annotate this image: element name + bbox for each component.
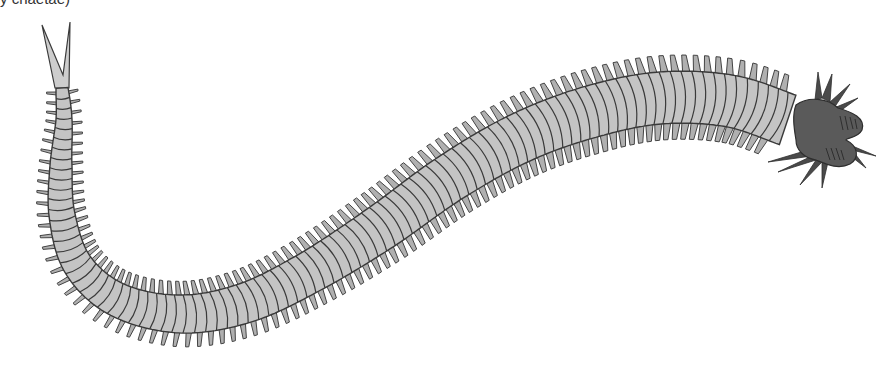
parapodium <box>635 58 646 75</box>
parapodium <box>173 332 180 347</box>
parapodium <box>37 190 49 195</box>
parapodium <box>689 122 698 139</box>
segmented-body <box>48 71 796 333</box>
parapodium <box>167 281 172 296</box>
parapodium <box>670 55 679 72</box>
parapodium <box>655 123 662 141</box>
parapodium <box>698 123 708 140</box>
parapodium <box>161 331 169 346</box>
parapodium <box>715 57 722 75</box>
tail-fork <box>42 22 70 88</box>
parapodium <box>672 122 680 139</box>
parapodium <box>71 161 83 165</box>
parapodium <box>191 281 199 296</box>
parapodium <box>664 122 671 139</box>
parapodium <box>186 332 192 347</box>
parapodium <box>693 55 701 72</box>
parapodium <box>647 57 657 74</box>
parapodium <box>183 281 190 296</box>
parapodium <box>659 56 668 73</box>
parapodium <box>726 58 733 76</box>
parapodium <box>71 181 83 185</box>
parapodium <box>176 281 182 296</box>
parapodium <box>704 56 711 74</box>
parapodium <box>197 331 202 346</box>
parapodium <box>71 171 83 175</box>
worm-illustration <box>0 0 880 378</box>
parapodium <box>71 190 83 195</box>
parapodium <box>681 122 690 139</box>
parapodium <box>38 180 50 185</box>
parapodium <box>682 55 690 72</box>
parapodium <box>646 124 653 142</box>
parapodium <box>37 202 50 206</box>
